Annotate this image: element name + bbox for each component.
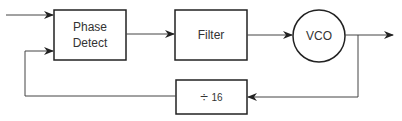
- diagram-svg: Phase Detect Filter VCO ÷ 16: [0, 0, 402, 121]
- divider-block: ÷ 16: [176, 80, 247, 114]
- phase-detect-label-line2: Detect: [73, 36, 108, 50]
- filter-label: Filter: [198, 28, 225, 42]
- vco-block: VCO: [293, 10, 345, 62]
- vco-label: VCO: [306, 29, 332, 43]
- phase-detect-label-line1: Phase: [73, 20, 107, 34]
- filter-block: Filter: [175, 10, 247, 60]
- pll-diagram: Phase Detect Filter VCO ÷ 16: [0, 0, 402, 121]
- phase-detect-block: Phase Detect: [54, 10, 126, 60]
- divide-value: 16: [211, 92, 223, 103]
- divide-symbol: ÷: [200, 89, 208, 105]
